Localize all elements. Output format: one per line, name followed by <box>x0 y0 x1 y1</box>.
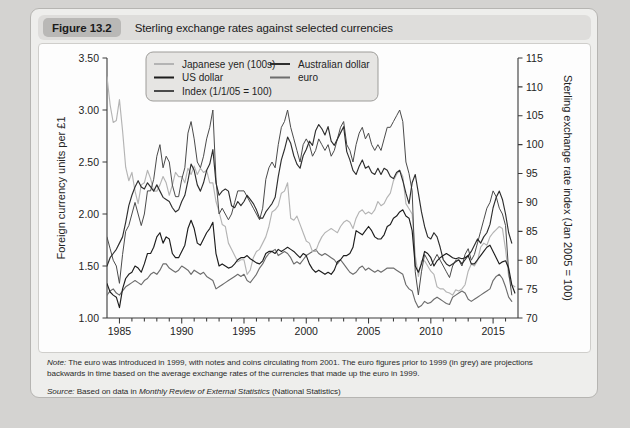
figure-screenshot: Figure 13.2 Sterling exchange rates agai… <box>0 0 630 428</box>
legend-label: Index (1/1/05 = 100) <box>182 86 272 97</box>
note-text-line2: backwards in time based on the average e… <box>47 368 592 379</box>
figure-header: Figure 13.2 Sterling exchange rates agai… <box>38 15 591 40</box>
x-tick-label: 2015 <box>481 325 505 337</box>
y-tick-label-right: 95 <box>526 167 538 179</box>
x-tick-label: 2005 <box>357 325 381 337</box>
y-tick-label-right: 70 <box>526 312 538 324</box>
y-tick-label-right: 80 <box>526 254 538 266</box>
y-tick-label-left: 2.00 <box>79 208 100 220</box>
figure-number-badge: Figure 13.2 <box>43 18 121 37</box>
legend-label: Japanese yen (100s) <box>182 59 275 70</box>
source-text-post: (National Statistics) <box>270 387 341 396</box>
series-line <box>107 110 512 295</box>
series-line <box>107 77 515 295</box>
figure-card: Figure 13.2 Sterling exchange rates agai… <box>30 8 598 398</box>
series-group <box>107 77 515 308</box>
y-tick-label-left: 1.00 <box>79 312 100 324</box>
x-tick-label: 2000 <box>295 325 319 337</box>
y-tick-label-right: 115 <box>526 52 543 64</box>
note-paragraph: Note: The euro was introduced in 1999, w… <box>47 357 592 368</box>
x-tick-label: 1990 <box>170 325 194 337</box>
y-tick-label-left: 3.50 <box>79 52 100 64</box>
chart-legend: Japanese yen (100s)Australian dollarUS d… <box>146 52 378 101</box>
y-tick-label-left: 2.50 <box>79 156 100 168</box>
x-tick-label: 1995 <box>232 325 256 337</box>
y-tick-label-right: 110 <box>526 81 543 93</box>
y-axis-label-right: Sterling exchange rate index (Jan 2005 =… <box>562 75 574 301</box>
y-tick-label-left: 3.00 <box>79 104 100 116</box>
legend-label: Australian dollar <box>298 59 370 70</box>
legend-label: US dollar <box>182 72 224 83</box>
figure-title: Sterling exchange rates against selected… <box>135 22 393 34</box>
line-chart: 1.001.502.002.503.003.507075808590951001… <box>39 44 590 352</box>
source-label: Source: <box>47 387 75 396</box>
source-publication: Monthly Review of External Statistics <box>139 387 270 396</box>
chart-plot-panel: 1.001.502.002.503.003.507075808590951001… <box>38 43 591 353</box>
x-tick-label: 1985 <box>108 325 132 337</box>
source-text-pre: Based on data in <box>75 387 139 396</box>
note-text-line1: The euro was introduced in 1999, with no… <box>66 358 533 367</box>
y-tick-label-right: 105 <box>526 109 544 121</box>
y-tick-label-right: 75 <box>526 283 538 295</box>
y-tick-label-right: 85 <box>526 225 538 237</box>
y-tick-label-right: 100 <box>526 138 544 150</box>
y-axis-label-left: Foreign currency units per £1 <box>55 116 67 259</box>
figure-footnotes: Note: The euro was introduced in 1999, w… <box>47 357 592 396</box>
series-line <box>107 249 512 307</box>
legend-label: euro <box>298 72 318 83</box>
x-tick-label: 2010 <box>419 325 443 337</box>
y-tick-label-left: 1.50 <box>79 260 100 272</box>
note-label: Note: <box>47 358 66 367</box>
y-tick-label-right: 90 <box>526 196 538 208</box>
source-paragraph: Source: Based on data in Monthly Review … <box>47 387 592 396</box>
